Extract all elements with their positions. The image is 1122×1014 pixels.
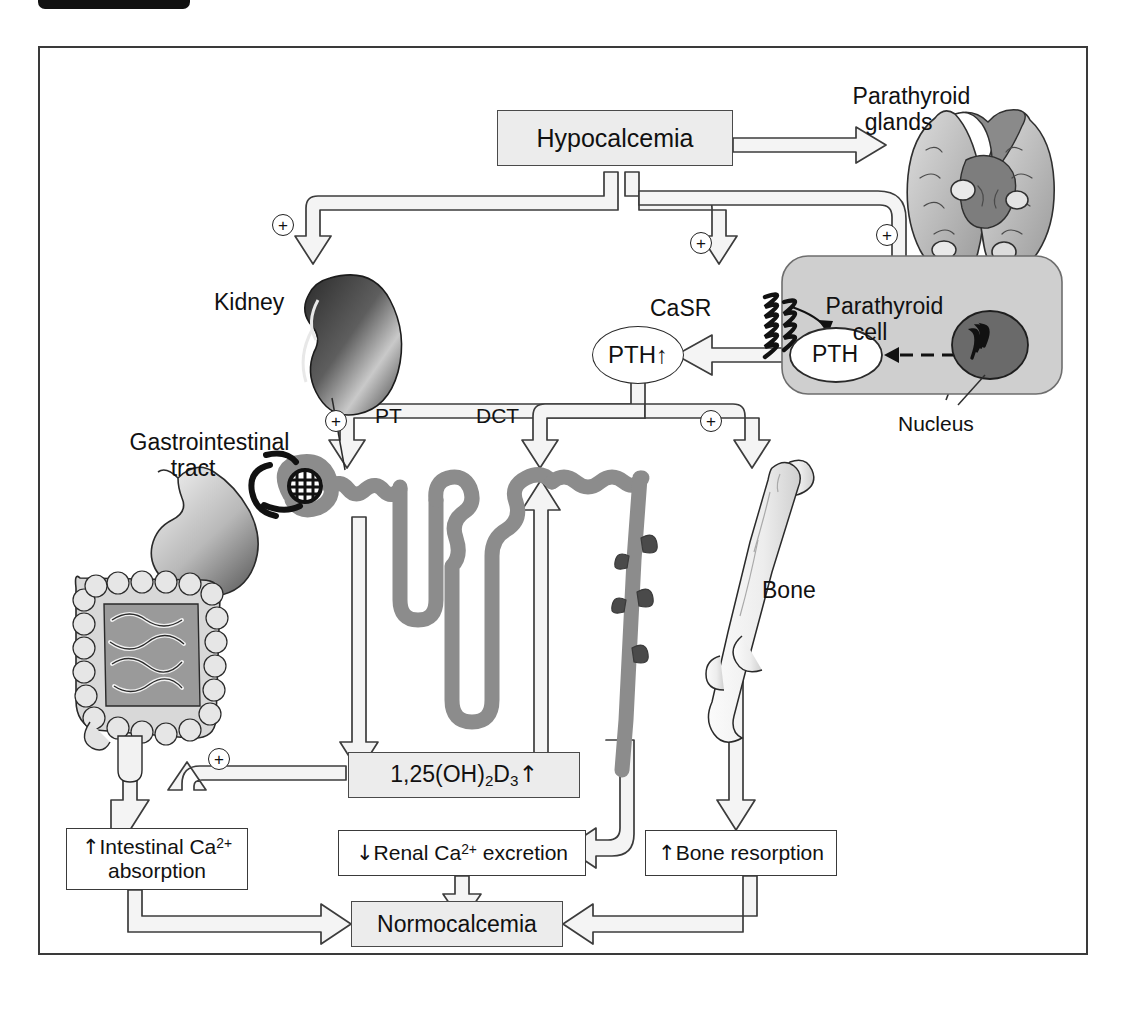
plus-sign-kidney: + [272, 214, 294, 236]
node-calcitriol[interactable]: 1,25(OH)2D3↑ [348, 752, 580, 798]
node-bone-resorption[interactable]: ↑Bone resorption [645, 830, 837, 876]
plus-sign-gi: + [208, 748, 230, 770]
proximal-tubule-label: PT [375, 404, 402, 428]
gi-tract-shape [73, 467, 258, 782]
node-normocalcemia[interactable]: Normocalcemia [351, 901, 563, 947]
node-pth-increased[interactable]: PTH↑ [592, 326, 684, 384]
renal-excretion-label: ↓Renal Ca2+ excretion [356, 841, 568, 865]
kidney-label: Kidney [214, 290, 284, 316]
parathyroid-glands-label: Parathyroidglands [827, 58, 970, 161]
calcitriol-label: 1,25(OH)2D3↑ [390, 761, 537, 789]
gi-tract-label: Gastrointestinaltract [104, 404, 282, 507]
normocalcemia-label: Normocalcemia [377, 911, 537, 938]
plus-sign-bone: + [700, 410, 722, 432]
nephron-shape [284, 461, 642, 770]
plus-sign-cell: + [876, 224, 898, 246]
parathyroid-cell-label: Parathyroidcell [800, 268, 940, 371]
plus-sign-casr: + [690, 232, 712, 254]
nucleus-label: Nucleus [898, 412, 974, 436]
node-hypocalcemia[interactable]: Hypocalcemia [497, 110, 733, 166]
node-intestinal-absorption[interactable]: ↑Intestinal Ca2+absorption [66, 828, 248, 890]
hypocalcemia-label: Hypocalcemia [536, 124, 693, 153]
bone-resorption-label: ↑Bone resorption [658, 841, 824, 865]
figure-canvas: Hypocalcemia PTH↑ PTH CaSR 1,25(OH)2D3↑ … [0, 0, 1122, 1014]
pth-increased-label: PTH↑ [608, 341, 668, 369]
distal-tubule-label: DCT [476, 404, 519, 428]
casr-label: CaSR [650, 296, 711, 322]
bone-label: Bone [762, 578, 816, 604]
plus-sign-nephron: + [325, 410, 347, 432]
node-renal-excretion[interactable]: ↓Renal Ca2+ excretion [338, 830, 586, 876]
intestinal-absorption-label: ↑Intestinal Ca2+absorption [82, 835, 232, 883]
